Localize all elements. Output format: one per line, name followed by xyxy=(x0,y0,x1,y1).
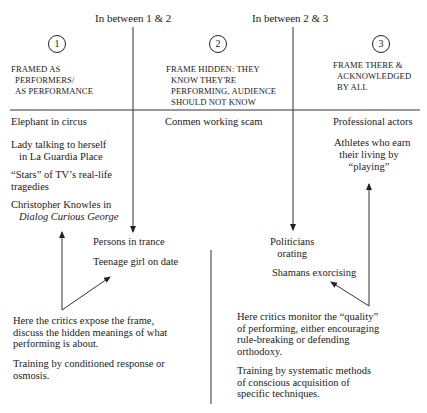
note-left-critics: Here the critics expose the frame, discu… xyxy=(13,315,167,350)
item-conmen: Conmen working scam xyxy=(165,116,262,128)
note-left-training: Training by conditioned response or osmo… xyxy=(13,358,165,381)
note-right-critics: Here critics monitor the “quality” of pe… xyxy=(237,311,379,357)
circle-number-2: 2 xyxy=(209,35,227,53)
arrow-left-diag xyxy=(62,277,110,310)
item-teenage-girl: Teenage girl on date xyxy=(93,256,178,268)
column-2-heading: FRAME HIDDEN: THEY KNOW THEY'RE PERFORMI… xyxy=(166,64,276,108)
circle-number-3: 3 xyxy=(372,35,390,53)
column-3-heading: FRAME THERE & ACKNOWLEDGED BY ALL xyxy=(333,60,411,93)
label-between-2-3: In between 2 & 3 xyxy=(252,12,328,24)
item-professional-actors: Professional actors xyxy=(333,116,413,128)
note-right-training: Training by systematic methods of consci… xyxy=(237,365,371,400)
arrow-right-diag xyxy=(331,282,369,306)
label-between-1-2: In between 1 & 2 xyxy=(95,12,171,24)
item-athletes: Athletes who earn their living by “playi… xyxy=(334,137,404,173)
item-tv-stars: “Stars” of TV’s real-life tragedies xyxy=(11,169,112,193)
item-trance: Persons in trance xyxy=(93,236,165,248)
item-politicians: Politicians orating xyxy=(270,236,314,260)
column-1-heading: FRAMED AS PERFORMERS/ AS PERFORMANCE xyxy=(11,64,93,97)
item-lady: Lady talking to herself in La Guardia Pl… xyxy=(11,139,106,163)
item-knowles: Christopher Knowles in Dialog Curious Ge… xyxy=(11,199,118,223)
item-shamans: Shamans exorcising xyxy=(272,267,356,279)
circle-number-1: 1 xyxy=(48,35,66,53)
item-elephant: Elephant in circus xyxy=(11,116,87,128)
